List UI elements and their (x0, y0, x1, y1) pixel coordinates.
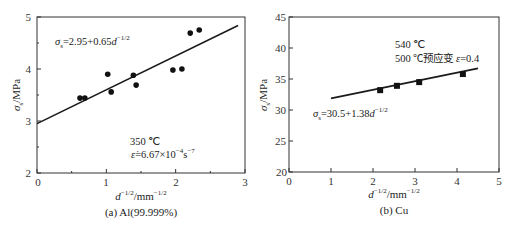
x-tick-label: 0 (286, 175, 292, 187)
data-point (133, 82, 139, 88)
fit-line (331, 68, 478, 98)
x-tick-label: 2 (370, 175, 376, 187)
temperature-annotation-a: 350 ℃ (130, 136, 160, 147)
x-tick-label: 3 (412, 175, 418, 187)
prestrain-annotation-b: 500 ℃预应变 ε=0.4 (395, 52, 480, 64)
caption-a: (a) Al(99.999%) (105, 206, 177, 219)
x-tick-label: 0 (35, 176, 41, 188)
data-point (170, 67, 176, 73)
y-tick-label: 25 (275, 135, 287, 147)
x-tick-label: 1 (328, 175, 334, 187)
chart-b: 20 25 30 35 40 45 0 1 2 3 4 5 σs/MPa d−1… (257, 11, 502, 217)
x-tick-label: 2 (173, 176, 179, 188)
chart-a: 2 3 4 5 0 1 2 3 σs/MPa d−1/2/mm−1/2 (a) … (10, 11, 248, 219)
caption-b: (b) Cu (380, 204, 409, 217)
data-point (77, 95, 83, 101)
data-point (105, 71, 111, 77)
x-axis-title-b: d−1/2/mm−1/2 (368, 187, 420, 200)
x-tick-label: 3 (242, 176, 248, 188)
equation-annotation-b: σs=30.5+1.38d−1/2 (313, 106, 388, 122)
x-tick-label: 1 (103, 176, 109, 188)
plot-area-b (289, 17, 499, 172)
y-tick-label: 4 (26, 63, 32, 75)
y-tick-label: 2 (26, 167, 32, 179)
y-tick-label: 3 (26, 115, 32, 127)
x-tick-label: 5 (496, 175, 502, 187)
axis-ticks-b (289, 17, 499, 172)
data-point (131, 72, 137, 78)
equation-annotation-a: σs=2.95+0.65d−1/2 (55, 34, 130, 50)
data-point (377, 87, 383, 93)
y-axis-title-b: σs/MPa (257, 79, 272, 111)
y-tick-label: 40 (275, 42, 287, 54)
data-point (196, 27, 202, 33)
temperature-annotation-b: 540 ℃ (395, 39, 425, 50)
x-tick-label: 4 (454, 175, 460, 187)
y-tick-label: 35 (275, 73, 287, 85)
y-tick-label: 30 (275, 104, 287, 116)
data-point (416, 79, 422, 85)
y-axis-title-a: σs/MPa (10, 79, 25, 111)
x-axis-title-a: d−1/2/mm−1/2 (115, 189, 167, 202)
data-point (82, 95, 88, 101)
data-point (108, 89, 114, 95)
y-tick-label: 45 (275, 11, 287, 23)
data-point (394, 83, 400, 89)
figure: 2 3 4 5 0 1 2 3 σs/MPa d−1/2/mm−1/2 (a) … (0, 0, 509, 226)
data-point (460, 71, 466, 77)
data-series-b (331, 68, 478, 98)
data-point (187, 30, 193, 36)
data-point (179, 66, 185, 72)
y-tick-label: 5 (26, 11, 32, 23)
strain-rate-annotation-a: ε̇=6.67×10−4s−7 (131, 147, 195, 160)
